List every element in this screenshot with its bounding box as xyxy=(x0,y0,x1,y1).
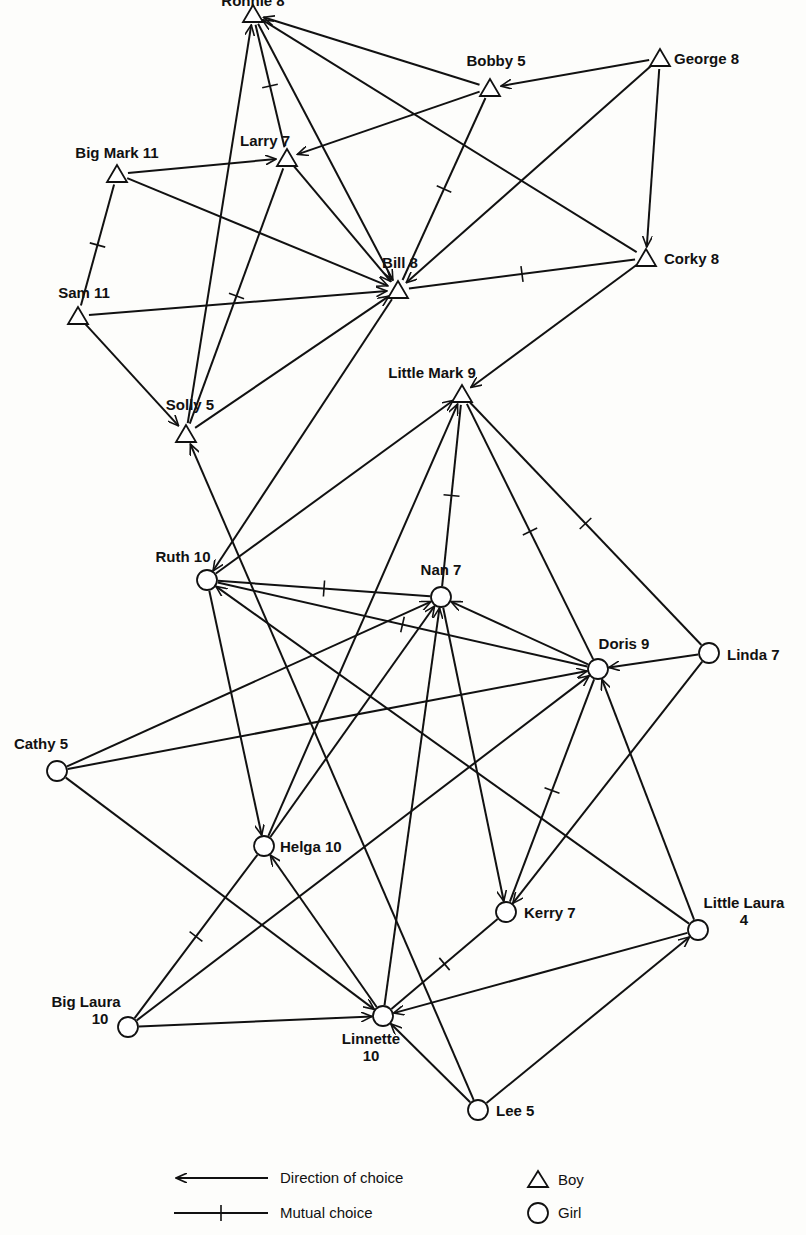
edge-bobby-bill xyxy=(403,98,486,280)
node-label: Ruth 10 xyxy=(155,548,210,565)
choice-arrow xyxy=(188,25,252,423)
choice-arrow xyxy=(66,778,374,1010)
node-name: Linnette xyxy=(342,1030,400,1047)
node-name: Ronnie xyxy=(221,0,276,9)
legend-boy: Boy xyxy=(528,1171,584,1188)
node-score: 10 xyxy=(92,1010,109,1027)
edge-corky-bill xyxy=(409,259,635,288)
node-name: Ruth xyxy=(155,548,193,565)
node-score: 8 xyxy=(711,250,719,267)
node-name: Lee xyxy=(496,1102,526,1119)
edge-linnette-nan xyxy=(385,608,440,1005)
node-littlelaura: Little Laura4 xyxy=(688,894,785,940)
node-score: 10 xyxy=(363,1047,380,1064)
node-label: Linnette10 xyxy=(342,1030,400,1064)
choice-arrow xyxy=(209,591,261,835)
node-score: 10 xyxy=(194,548,211,565)
edge-ronnie-bill xyxy=(258,24,393,281)
legend: Direction of choice Mutual choice Boy Gi… xyxy=(174,1169,584,1223)
node-label: Ronnie 8 xyxy=(221,0,284,9)
node-score: 9 xyxy=(641,635,649,652)
girl-circle-icon xyxy=(468,1100,488,1120)
edge-linda-littlemark xyxy=(470,402,702,645)
girl-circle-icon xyxy=(47,761,67,781)
node-lee: Lee 5 xyxy=(468,1100,534,1120)
node-score: 7 xyxy=(771,646,779,663)
node-name: Larry xyxy=(240,132,282,149)
choice-arrow xyxy=(216,400,453,573)
node-score: 8 xyxy=(276,0,284,9)
boy-triangle-icon xyxy=(452,385,472,402)
boy-triangle-icon xyxy=(528,1171,548,1187)
node-score: 11 xyxy=(94,284,110,301)
sociogram: Ronnie 8Bobby 5George 8Larry 7Big Mark 1… xyxy=(0,0,806,1235)
choice-arrow xyxy=(385,608,440,1005)
node-name: George xyxy=(674,50,731,67)
node-doris: Doris 9 xyxy=(588,635,649,679)
choice-arrow xyxy=(128,159,276,173)
node-score: 10 xyxy=(325,838,342,855)
edge-george-bill xyxy=(406,65,652,282)
girl-circle-icon xyxy=(588,659,608,679)
choice-arrow xyxy=(297,92,479,155)
girl-circle-icon xyxy=(528,1203,548,1223)
node-label: Little Laura4 xyxy=(704,894,786,928)
edge-bigmark-larry xyxy=(128,159,276,173)
edge-helga-littlemark xyxy=(268,404,457,836)
edge-biglaura-doris xyxy=(137,676,589,1021)
boy-triangle-icon xyxy=(636,249,656,266)
girl-circle-icon xyxy=(373,1006,393,1026)
edge-biglaura-helga xyxy=(135,855,258,1018)
mutual-tick-icon xyxy=(521,266,523,282)
choice-arrow xyxy=(213,299,392,571)
node-label: Helga 10 xyxy=(280,838,342,855)
node-kerry: Kerry 7 xyxy=(496,902,576,922)
girl-circle-icon xyxy=(688,920,708,940)
edge-george-corky xyxy=(647,69,659,247)
girl-circle-icon xyxy=(431,587,451,607)
choice-arrow xyxy=(471,265,637,388)
boy-triangle-icon xyxy=(176,425,196,442)
node-score: 4 xyxy=(740,911,749,928)
node-george: George 8 xyxy=(650,49,739,67)
edge-solly-bill xyxy=(195,296,389,428)
node-linnette: Linnette10 xyxy=(342,1006,400,1064)
node-name: Solly xyxy=(166,396,206,413)
node-score: 7 xyxy=(453,561,461,578)
node-linda: Linda 7 xyxy=(699,643,780,663)
choice-arrow xyxy=(602,679,694,919)
girl-circle-icon xyxy=(254,836,274,856)
node-label: Bobby 5 xyxy=(466,52,525,69)
node-name: Corky xyxy=(664,250,711,267)
node-label: Little Mark 9 xyxy=(388,364,476,381)
choice-arrow xyxy=(139,1016,372,1026)
node-biglaura: Big Laura10 xyxy=(51,993,138,1037)
node-bigmark: Big Mark 11 xyxy=(75,144,158,182)
choice-arrow xyxy=(262,20,636,252)
node-score: 7 xyxy=(282,132,290,149)
node-label: Linda 7 xyxy=(727,646,780,663)
choice-arrow xyxy=(647,69,659,247)
node-score: 8 xyxy=(731,50,739,67)
choice-arrow xyxy=(264,17,480,84)
edge-cathy-linnette xyxy=(66,778,374,1010)
node-name: Little Mark xyxy=(388,364,467,381)
edge-ruth-helga xyxy=(209,591,261,835)
node-name: Bobby xyxy=(466,52,517,69)
node-ronnie: Ronnie 8 xyxy=(221,0,284,22)
choice-arrow xyxy=(451,602,588,665)
nodes-layer: Ronnie 8Bobby 5George 8Larry 7Big Mark 1… xyxy=(14,0,785,1120)
node-name: Helga xyxy=(280,838,325,855)
mutual-tick-icon xyxy=(323,581,324,597)
node-score: 5 xyxy=(517,52,525,69)
node-label: Big Laura10 xyxy=(51,993,121,1027)
boy-triangle-icon xyxy=(650,49,670,66)
node-littlemark: Little Mark 9 xyxy=(388,364,476,402)
node-label: Nan 7 xyxy=(421,561,462,578)
edge-helga-nan xyxy=(270,606,434,837)
node-name: Little Laura xyxy=(704,894,786,911)
choice-arrow xyxy=(394,933,688,1013)
edge-doris-nan xyxy=(451,602,588,665)
edge-ruth-nan xyxy=(218,581,430,597)
mutual-tick-icon xyxy=(444,495,460,497)
